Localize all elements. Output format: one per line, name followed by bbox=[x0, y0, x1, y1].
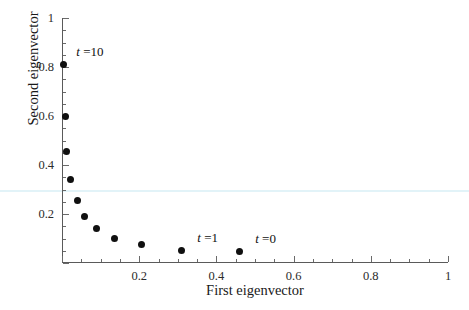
plot-area: 0.20.40.60.81 0.20.40.60.81 t =10t =1t =… bbox=[62, 18, 448, 263]
x-tick-minor bbox=[429, 259, 430, 262]
data-point bbox=[178, 247, 185, 254]
x-tick-minor bbox=[120, 259, 121, 262]
data-point bbox=[62, 113, 69, 120]
data-point bbox=[63, 148, 70, 155]
x-tick-minor bbox=[178, 259, 179, 262]
y-tick-minor bbox=[63, 128, 66, 129]
x-tick-major bbox=[216, 256, 217, 262]
x-tick-minor bbox=[81, 259, 82, 262]
y-tick-minor bbox=[63, 141, 66, 142]
x-tick-minor bbox=[197, 259, 198, 262]
data-point bbox=[74, 197, 81, 204]
x-tick-minor bbox=[274, 259, 275, 262]
y-tick-minor bbox=[63, 43, 66, 44]
x-tick-minor bbox=[101, 259, 102, 262]
data-point bbox=[67, 176, 74, 183]
x-tick-major bbox=[294, 256, 295, 262]
y-tick-minor bbox=[63, 104, 66, 105]
x-tick-minor bbox=[352, 259, 353, 262]
y-tick-major bbox=[63, 18, 69, 19]
y-tick-minor bbox=[63, 202, 66, 203]
point-annotation: t =10 bbox=[76, 44, 103, 60]
x-tick-minor bbox=[236, 259, 237, 262]
annotation-value: =10 bbox=[80, 44, 104, 59]
data-point bbox=[81, 213, 88, 220]
x-tick-major bbox=[448, 256, 449, 262]
y-axis-title: Second eigenvector bbox=[25, 0, 42, 164]
x-tick-major bbox=[139, 256, 140, 262]
data-point bbox=[236, 248, 243, 255]
x-tick-minor bbox=[390, 259, 391, 262]
y-tick-minor bbox=[63, 92, 66, 93]
data-point bbox=[138, 241, 145, 248]
y-tick-minor bbox=[63, 239, 66, 240]
y-tick-minor bbox=[63, 226, 66, 227]
data-point bbox=[93, 225, 100, 232]
x-tick-minor bbox=[332, 259, 333, 262]
x-tick-minor bbox=[159, 259, 160, 262]
x-tick-major bbox=[62, 256, 63, 262]
x-tick-major bbox=[371, 256, 372, 262]
point-annotation: t =0 bbox=[255, 231, 276, 247]
y-tick-major bbox=[63, 263, 69, 264]
x-tick-minor bbox=[255, 259, 256, 262]
y-tick-major bbox=[63, 165, 69, 166]
x-tick-minor bbox=[313, 259, 314, 262]
data-point bbox=[111, 235, 118, 242]
point-annotation: t =1 bbox=[197, 230, 218, 246]
y-tick-minor bbox=[63, 190, 66, 191]
y-tick-minor bbox=[63, 177, 66, 178]
y-tick-minor bbox=[63, 79, 66, 80]
y-tick-minor bbox=[63, 251, 66, 252]
x-tick-minor bbox=[409, 259, 410, 262]
scatter-plot-figure: 0.20.40.60.81 0.20.40.60.81 t =10t =1t =… bbox=[0, 0, 469, 310]
x-axis-title: First eigenvector bbox=[62, 282, 448, 299]
x-axis-line bbox=[62, 262, 448, 263]
y-tick-major bbox=[63, 214, 69, 215]
y-tick-minor bbox=[63, 30, 66, 31]
annotation-value: =0 bbox=[259, 231, 276, 246]
annotation-value: =1 bbox=[201, 230, 218, 245]
y-tick-label: 0.2 bbox=[14, 207, 54, 222]
y-tick-minor bbox=[63, 55, 66, 56]
